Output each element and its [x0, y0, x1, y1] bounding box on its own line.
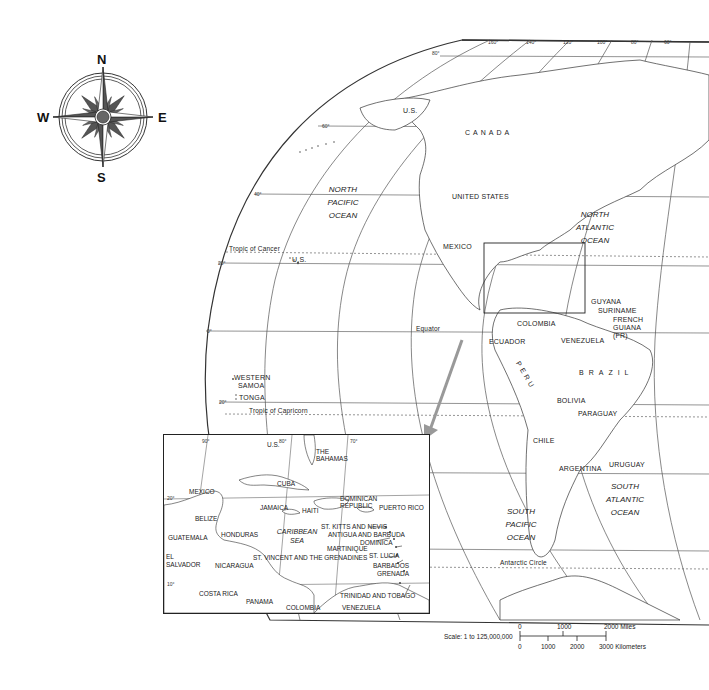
inset-lat-label: 10°	[167, 581, 175, 587]
inset-label-colombia: COLOMBIA	[286, 605, 320, 612]
label-tonga: TONGA	[239, 394, 265, 401]
lon-label: 60°	[664, 39, 672, 45]
antarctica-land	[500, 576, 680, 620]
label-line: BAHAMAS	[316, 456, 348, 463]
inset-label-jamaica: JAMAICA	[260, 505, 288, 512]
inset-label-mexico: MEXICO	[189, 489, 215, 496]
lat-label: 20°	[219, 399, 227, 405]
label-colombia: COLOMBIA	[517, 320, 556, 327]
label-line: DOMINICAN	[340, 495, 377, 502]
label-guyana: GUYANA	[591, 298, 621, 305]
south-pacific-ocean-label: SOUTH PACIFIC OCEAN	[496, 505, 546, 544]
ocean-line: OCEAN	[496, 531, 546, 544]
compass-east: E	[158, 110, 167, 125]
inset-label-venezuela: VENEZUELA	[342, 605, 381, 612]
label-line: WESTERN	[234, 374, 270, 382]
inset-label-st-kitts: ST. KITTS AND NEVIS	[321, 524, 387, 531]
scale-km-tick: 1000	[541, 643, 555, 650]
equator-label: Equator	[416, 326, 440, 333]
compass-rose-icon	[53, 67, 153, 167]
ocean-line: OCEAN	[570, 234, 620, 247]
label-line: SALVADOR	[166, 561, 200, 569]
inset-label-nicaragua: NICARAGUA	[215, 563, 254, 570]
label-us-hawaii: U.S.	[292, 256, 306, 263]
label-uruguay: URUGUAY	[609, 461, 645, 468]
lat-label: 0°	[207, 328, 212, 334]
label-mexico: MEXICO	[443, 243, 472, 250]
inset-graphic	[164, 435, 429, 613]
scale-label: Scale: 1 to 125,000,000	[444, 633, 513, 640]
inset-label-guatemala: GUATEMALA	[168, 535, 208, 542]
ocean-line: NORTH	[570, 208, 620, 221]
label-line: EL	[166, 553, 200, 561]
ocean-line: NORTH	[318, 183, 368, 196]
inset-label-honduras: HONDURAS	[221, 532, 258, 539]
label-venezuela: VENEZUELA	[561, 337, 604, 344]
label-brazil: BRAZIL	[579, 369, 634, 376]
label-canada: CANADA	[465, 129, 512, 136]
north-pacific-ocean-label: NORTH PACIFIC OCEAN	[318, 183, 368, 222]
lon-label: 120°	[563, 39, 573, 45]
label-line: GUIANA	[613, 324, 643, 332]
south-atlantic-ocean-label: SOUTH ATLANTIC OCEAN	[600, 480, 650, 519]
lon-label: 160°	[488, 39, 498, 45]
label-line: CARIBBEAN	[272, 527, 322, 536]
lon-label: 80°	[631, 39, 639, 45]
north-atlantic-ocean-label: NORTH ATLANTIC OCEAN	[570, 208, 620, 247]
label-us-alaska: U.S.	[403, 107, 417, 114]
ocean-line: ATLANTIC	[600, 493, 650, 506]
inset-label-caribbean-sea: CARIBBEAN SEA	[272, 527, 322, 545]
inset-label-martinique: MARTINIQUE	[327, 546, 368, 553]
inset-label-antigua: ANTIGUA AND BARBUDA	[328, 532, 405, 539]
ocean-line: SOUTH	[496, 505, 546, 518]
label-western-samoa: WESTERN SAMOA	[234, 374, 270, 390]
lat-label: 40°	[254, 191, 262, 197]
ocean-line: OCEAN	[600, 506, 650, 519]
inset-label-costa-rica: COSTA RICA	[199, 591, 238, 598]
scale-mile-tick: 1000	[557, 623, 571, 630]
inset-lon-label: 70°	[350, 438, 358, 444]
label-united-states: UNITED STATES	[452, 193, 509, 200]
label-line: (FR)	[613, 332, 643, 340]
scale-km-tick: 0	[518, 643, 522, 650]
label-line: FRENCH	[613, 316, 643, 324]
inset-label-panama: PANAMA	[246, 599, 273, 606]
inset-label-st-lucia: ST. LUCIA	[369, 553, 399, 560]
inset-label-belize: BELIZE	[195, 516, 217, 523]
ocean-line: PACIFIC	[318, 196, 368, 209]
scale-km-tick: 2000	[570, 643, 584, 650]
inset-label-trinidad: TRINIDAD AND TOBAGO	[340, 593, 415, 600]
tropic-capricorn-label: Tropic of Capricorn	[249, 408, 308, 415]
scale-km-tick: 3000 Kilometers	[599, 643, 646, 650]
inset-lon-label: 80°	[279, 438, 287, 444]
north-america-land	[395, 60, 709, 310]
caribbean-inset-map: 90° 80° 70° 20° 10° U.S. THE BAHAMAS MEX…	[163, 434, 430, 614]
label-line: REPUBLIC	[340, 502, 377, 509]
inset-label-dominican-republic-text: DOMINICAN REPUBLIC	[340, 495, 377, 509]
ocean-line: ATLANTIC	[570, 221, 620, 234]
lon-label: 140°	[526, 39, 536, 45]
inset-lon-label: 90°	[202, 438, 210, 444]
scale-mile-tick: 2000 Miles	[604, 623, 635, 630]
lat-label: 60°	[322, 123, 330, 129]
compass-south: S	[97, 170, 106, 185]
label-suriname: SURINAME	[598, 307, 637, 314]
lon-label: 80°	[432, 50, 440, 56]
inset-label-cuba: CUBA	[277, 481, 295, 488]
inset-lat-label: 20°	[167, 495, 175, 501]
inset-label-el-salvador: EL SALVADOR	[166, 553, 200, 569]
inset-label-barbados: BARBADOS	[373, 563, 409, 570]
ocean-line: OCEAN	[318, 209, 368, 222]
ocean-line: PACIFIC	[496, 518, 546, 531]
tropic-cancer-label: Tropic of Cancer	[229, 246, 280, 253]
inset-label-us: U.S.	[267, 442, 280, 449]
label-line: SAMOA	[234, 382, 270, 390]
scale-mile-tick: 0	[518, 623, 522, 630]
lat-label: 20°	[218, 260, 226, 266]
label-paraguay: PARAGUAY	[578, 410, 617, 417]
scale-bar	[520, 631, 606, 641]
inset-label-grenada: GRENADA	[377, 571, 409, 578]
compass-west: W	[37, 110, 49, 125]
label-french-guiana: FRENCH GUIANA (FR)	[613, 316, 643, 340]
compass-north: N	[97, 52, 106, 67]
